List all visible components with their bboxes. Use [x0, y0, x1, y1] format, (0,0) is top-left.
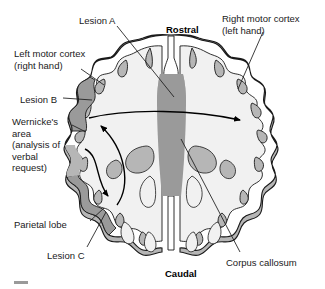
brain-diagram-figure: Lesion A Left motor cortex (right hand) … — [0, 0, 325, 289]
label-right-motor-cortex: Right motor cortex (left hand) — [222, 13, 300, 36]
label-lesion-c: Lesion C — [47, 250, 85, 262]
brain-outline-group — [64, 35, 278, 256]
label-rostral: Rostral — [166, 24, 199, 36]
lesion-a-region — [157, 74, 186, 104]
label-lesion-a: Lesion A — [79, 15, 115, 27]
figure-corner-mark — [14, 281, 28, 284]
leader-right-motor-cortex — [238, 32, 263, 89]
midline-fissure-caudal — [168, 196, 174, 250]
label-caudal: Caudal — [165, 268, 197, 280]
label-lesion-b: Lesion B — [20, 94, 57, 106]
label-left-motor-cortex: Left motor cortex (right hand) — [14, 48, 85, 71]
label-wernickes-area: Wernicke's area (analysis of verbal requ… — [12, 116, 60, 174]
longitudinal-fissure — [164, 36, 178, 76]
label-corpus-callosum: Corpus callosum — [226, 257, 297, 269]
label-parietal-lobe: Parietal lobe — [14, 219, 67, 231]
